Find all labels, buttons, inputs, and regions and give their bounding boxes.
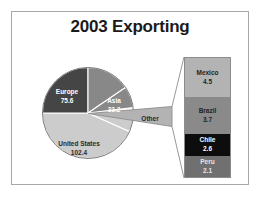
bar-segment-brazil-name: Brazil <box>199 107 217 116</box>
pie-label-united-states: United States 102.4 <box>45 140 113 157</box>
bar-segment-mexico-value: 4.5 <box>203 78 212 87</box>
bar-segment-chile[interactable]: Chile 2.6 <box>185 134 230 157</box>
bar-segment-chile-value: 2.6 <box>203 145 212 154</box>
bar-segment-peru[interactable]: Peru 2.1 <box>185 156 230 177</box>
bar-segment-mexico[interactable]: Mexico 4.5 <box>185 58 230 97</box>
pie-label-europe-name: Europe <box>56 88 78 95</box>
other-breakdown-bar: Mexico 4.5 Brazil 3.7 Chile 2.6 Peru 2.1 <box>184 57 231 178</box>
bar-segment-brazil[interactable]: Brazil 3.7 <box>185 97 230 133</box>
pie-label-europe-value: 75.6 <box>44 97 90 106</box>
chart-title: 2003 Exporting <box>11 17 249 37</box>
pie-label-asia-name: Asia <box>107 97 121 104</box>
pie-label-united-states-name: United States <box>58 140 100 147</box>
pie-label-asia-value: 33.2 <box>99 106 129 115</box>
pie-label-asia: Asia 33.2 <box>99 97 129 114</box>
chart-canvas: 2003 Exporting Europe 75.6 Asia 3 <box>0 0 262 197</box>
pie-label-europe: Europe 75.6 <box>44 88 90 105</box>
bar-segment-peru-value: 2.1 <box>203 167 212 176</box>
pie-label-other: Other <box>133 115 167 124</box>
bar-segment-mexico-name: Mexico <box>196 69 218 78</box>
bar-segment-brazil-value: 3.7 <box>203 116 212 125</box>
bar-segment-chile-name: Chile <box>200 136 216 145</box>
bar-segment-peru-name: Peru <box>200 158 214 167</box>
pie-label-united-states-value: 102.4 <box>45 149 113 158</box>
